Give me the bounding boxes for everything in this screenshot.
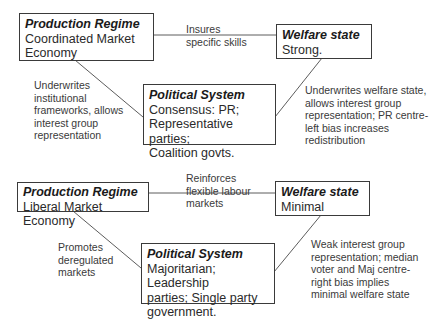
welfare-state-box-lme: Welfare state Minimal (275, 181, 370, 216)
link-label-underwrites-welfare: Underwrites welfare state, allows intere… (305, 84, 428, 147)
link-label-insures-skills: Insures specific skills (186, 23, 247, 48)
box-body: Strong. (282, 43, 367, 58)
production-regime-box-cme: Production Regime Coordinated Market Eco… (19, 13, 154, 61)
production-regime-box-lme: Production Regime Liberal Market Economy (17, 182, 149, 212)
political-system-box-cme: Political System Consensus: PR; Represen… (143, 84, 276, 145)
box-body: Liberal Market Economy (23, 200, 144, 229)
link-label-promotes-deregulated: Promotes deregulated markets (58, 241, 113, 279)
box-body: Minimal (281, 200, 365, 215)
link-label-reinforces-labour: Reinforces flexible labour markets (186, 172, 251, 210)
welfare-state-box-cme: Welfare state Strong. (276, 24, 372, 59)
political-system-box-lme: Political System Majoritarian; Leadershi… (141, 243, 275, 304)
box-body: Majoritarian; Leadership parties; Single… (147, 262, 270, 320)
link-label-underwrites-frameworks: Underwrites institutional frameworks, al… (34, 79, 123, 142)
box-title: Production Regime (23, 185, 144, 200)
box-title: Welfare state (281, 185, 365, 200)
box-title: Production Regime (25, 17, 149, 32)
box-title: Political System (147, 247, 270, 262)
box-title: Political System (149, 88, 271, 103)
box-body: Consensus: PR; Representative parties; C… (149, 103, 271, 161)
box-title: Welfare state (282, 28, 367, 43)
box-body: Coordinated Market Economy (25, 32, 149, 61)
link-label-weak-interest-group: Weak interest group representation; medi… (311, 238, 418, 301)
